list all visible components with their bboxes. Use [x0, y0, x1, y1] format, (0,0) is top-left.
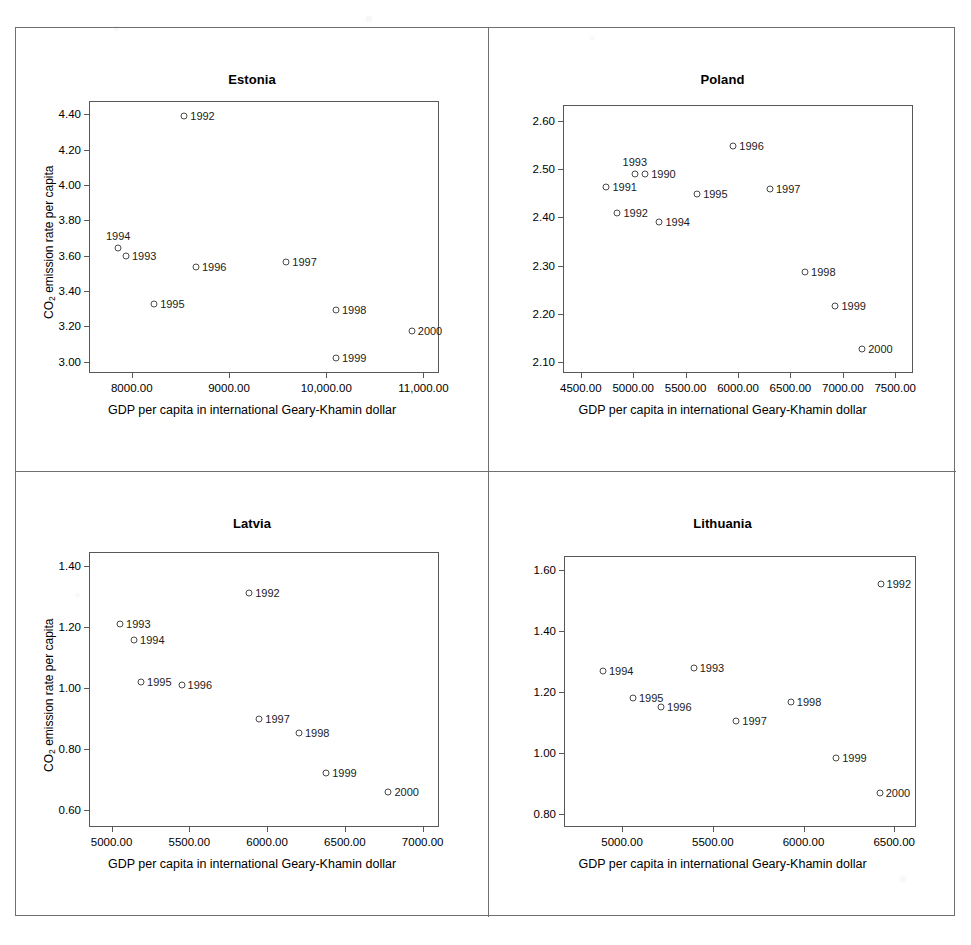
data-point-label: 1994 [140, 634, 164, 646]
chart-panel-estonia: Estonia3.003.203.403.603.804.004.204.408… [16, 28, 488, 471]
data-point-label: 1994 [106, 230, 130, 242]
y-tick-label: 4.40 [43, 108, 81, 120]
data-point-label: 1998 [305, 727, 329, 739]
y-tick-label: 1.20 [518, 686, 556, 698]
x-tick-mark [622, 827, 623, 832]
data-point-label: 1997 [292, 256, 316, 268]
data-point-label: 1992 [623, 207, 647, 219]
y-tick-mark [84, 566, 89, 567]
y-tick-mark [84, 688, 89, 689]
x-tick-label: 6000.00 [783, 836, 825, 848]
y-tick-mark [559, 631, 564, 632]
data-point-label: 1995 [160, 298, 184, 310]
y-tick-mark [84, 627, 89, 628]
x-tick-label: 7000.00 [822, 382, 864, 394]
data-point-marker [690, 665, 697, 672]
y-tick-mark [558, 169, 563, 170]
x-axis-label-poland: GDP per capita in international Geary-Kh… [489, 403, 956, 417]
data-point-marker [730, 143, 737, 150]
data-point-marker [656, 219, 663, 226]
y-tick-label: 3.00 [43, 356, 81, 368]
data-point-marker [192, 264, 199, 271]
x-tick-label: 6500.00 [324, 836, 366, 848]
data-point-label: 2000 [886, 787, 910, 799]
x-tick-mark [132, 373, 133, 378]
data-point-label: 1996 [202, 261, 226, 273]
x-axis-label-latvia: GDP per capita in international Geary-Kh… [16, 857, 488, 871]
y-tick-label: 1.40 [518, 625, 556, 637]
x-tick-label: 5000.00 [91, 836, 133, 848]
data-point-label: 1992 [887, 578, 911, 590]
x-tick-mark [189, 827, 190, 832]
chart-panel-lithuania: Lithuania0.801.001.201.401.605000.005500… [489, 472, 956, 917]
figure-frame: Estonia3.003.203.403.603.804.004.204.408… [15, 27, 955, 916]
data-point-marker [877, 581, 884, 588]
data-point-marker [631, 170, 638, 177]
data-point-label: 1998 [811, 266, 835, 278]
y-tick-mark [559, 570, 564, 571]
data-point-label: 1997 [265, 713, 289, 725]
y-tick-label: 2.40 [517, 211, 555, 223]
data-point-marker [859, 346, 866, 353]
x-tick-mark [423, 827, 424, 832]
data-point-label: 1998 [797, 696, 821, 708]
data-point-label: 1998 [342, 304, 366, 316]
y-tick-mark [84, 150, 89, 151]
data-point-marker [178, 681, 185, 688]
y-tick-mark [84, 326, 89, 327]
y-tick-label: 2.60 [517, 115, 555, 127]
x-tick-label: 6500.00 [770, 382, 812, 394]
x-tick-mark [633, 373, 634, 378]
data-point-marker [408, 327, 415, 334]
x-tick-mark [894, 827, 895, 832]
x-tick-mark [738, 373, 739, 378]
data-point-marker [323, 770, 330, 777]
x-tick-label: 4500.00 [560, 382, 602, 394]
data-point-marker [256, 716, 263, 723]
y-tick-mark [558, 217, 563, 218]
data-point-marker [332, 354, 339, 361]
y-tick-label: 1.40 [43, 560, 81, 572]
y-tick-label: 0.80 [518, 808, 556, 820]
x-tick-mark [581, 373, 582, 378]
chart-title-poland: Poland [489, 72, 956, 87]
data-point-marker [629, 694, 636, 701]
data-point-label: 1991 [612, 181, 636, 193]
y-tick-label: 3.20 [43, 320, 81, 332]
y-tick-mark [84, 749, 89, 750]
y-tick-label: 4.20 [43, 144, 81, 156]
x-tick-label: 5500.00 [169, 836, 211, 848]
x-tick-label: 10,000.00 [301, 382, 352, 394]
y-axis-label-latvia: CO2 emission rate per capita [42, 618, 57, 772]
chart-panel-latvia: Latvia0.600.801.001.201.405000.005500.00… [16, 472, 488, 917]
chart-title-lithuania: Lithuania [489, 516, 956, 531]
data-point-label: 1999 [841, 300, 865, 312]
data-point-marker [832, 303, 839, 310]
data-point-marker [283, 258, 290, 265]
x-tick-mark [112, 827, 113, 832]
data-point-marker [787, 699, 794, 706]
data-point-marker [733, 717, 740, 724]
y-tick-mark [84, 114, 89, 115]
y-tick-mark [84, 362, 89, 363]
x-tick-label: 6000.00 [717, 382, 759, 394]
y-tick-mark [559, 692, 564, 693]
x-tick-mark [326, 373, 327, 378]
x-tick-label: 11,000.00 [398, 382, 448, 394]
y-tick-mark [559, 753, 564, 754]
x-tick-label: 6500.00 [873, 836, 915, 848]
y-tick-mark [84, 220, 89, 221]
data-point-label: 1994 [609, 665, 633, 677]
data-point-label: 1994 [665, 216, 689, 228]
y-tick-mark [558, 266, 563, 267]
data-point-marker [603, 184, 610, 191]
data-point-label: 1999 [342, 352, 366, 364]
x-tick-mark [423, 373, 424, 378]
data-point-marker [332, 307, 339, 314]
data-point-marker [117, 621, 124, 628]
y-tick-mark [84, 291, 89, 292]
data-point-label: 1993 [132, 250, 156, 262]
y-tick-label: 0.60 [43, 804, 81, 816]
data-point-label: 2000 [418, 325, 442, 337]
data-point-label: 1993 [126, 618, 150, 630]
